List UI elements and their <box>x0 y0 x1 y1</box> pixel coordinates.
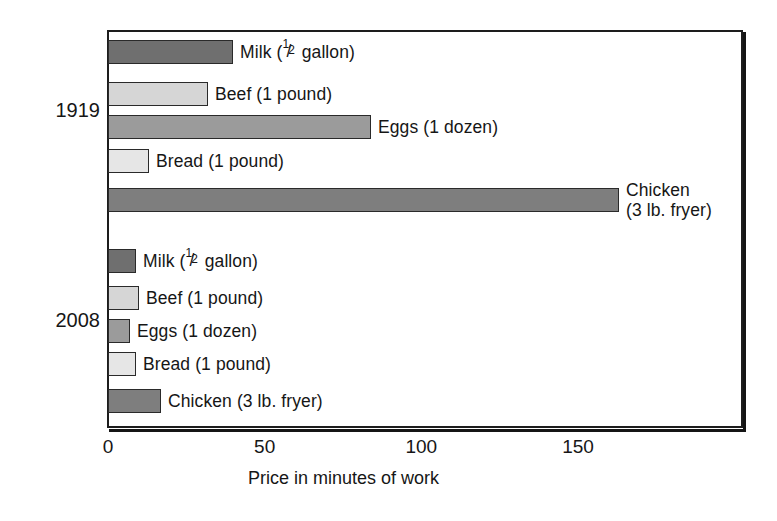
bar-label-2008-bread: Bread (1 pound) <box>143 354 271 374</box>
bar-label-2008-milk: Milk (1/2 gallon) <box>143 251 258 271</box>
x-tick-label-50: 50 <box>254 436 275 458</box>
bar-label-2008-eggs: Eggs (1 dozen) <box>137 321 257 341</box>
bar-2008-bread[interactable] <box>108 352 136 376</box>
bar-2008-eggs[interactable] <box>108 319 130 343</box>
group-label-1919: 1919 <box>28 99 100 122</box>
label-prefix: Milk ( <box>240 42 282 62</box>
bar-2008-beef[interactable] <box>108 286 139 310</box>
bar-1919-chicken[interactable] <box>108 188 619 212</box>
x-tick-label-150: 150 <box>562 436 594 458</box>
label-line-2: (3 lb. fryer) <box>626 200 712 220</box>
bar-1919-milk[interactable] <box>108 40 233 64</box>
bar-row[interactable]: Eggs (1 dozen) <box>108 319 257 343</box>
bar-label-2008-beef: Beef (1 pound) <box>146 288 263 308</box>
label-prefix: Milk ( <box>143 251 185 271</box>
fraction-one-half: 1/2 <box>282 42 296 60</box>
bar-row[interactable]: Chicken (3 lb. fryer) <box>108 389 323 413</box>
x-tick-label-100: 100 <box>405 436 437 458</box>
bar-label-1919-eggs: Eggs (1 dozen) <box>378 117 498 137</box>
bar-label-1919-chicken: Chicken (3 lb. fryer) <box>626 180 756 220</box>
fraction-one-half: 1/2 <box>185 251 199 269</box>
axis-bottom-rule <box>109 429 746 432</box>
bar-row[interactable]: Milk (1/2 gallon) <box>108 40 355 64</box>
bar-2008-chicken[interactable] <box>108 389 161 413</box>
x-tick-label-0: 0 <box>103 436 114 458</box>
bar-label-1919-milk: Milk (1/2 gallon) <box>240 42 355 62</box>
label-suffix: gallon) <box>200 251 258 271</box>
bar-label-2008-chicken: Chicken (3 lb. fryer) <box>168 391 323 411</box>
bar-label-1919-bread: Bread (1 pound) <box>156 151 284 171</box>
bar-1919-eggs[interactable] <box>108 115 371 139</box>
label-line-1: Chicken <box>626 180 690 200</box>
bar-1919-beef[interactable] <box>108 82 208 106</box>
label-suffix: gallon) <box>297 42 355 62</box>
bar-row[interactable]: Chicken (3 lb. fryer) <box>108 188 756 212</box>
bar-row[interactable]: Bread (1 pound) <box>108 352 271 376</box>
bar-row[interactable]: Bread (1 pound) <box>108 149 284 173</box>
bar-row[interactable]: Milk (1/2 gallon) <box>108 249 258 273</box>
bar-row[interactable]: Beef (1 pound) <box>108 82 332 106</box>
x-axis-title: Price in minutes of work <box>248 468 439 489</box>
bar-2008-milk[interactable] <box>108 249 136 273</box>
bar-row[interactable]: Eggs (1 dozen) <box>108 115 498 139</box>
x-axis-title-container: Price in minutes of work <box>0 468 777 489</box>
bar-chart: 1919 2008 Milk (1/2 gallon) Beef (1 poun… <box>0 0 777 521</box>
bar-row[interactable]: Beef (1 pound) <box>108 286 263 310</box>
bar-label-1919-beef: Beef (1 pound) <box>215 84 332 104</box>
group-label-2008: 2008 <box>28 309 100 332</box>
frame-right-rule <box>743 32 746 432</box>
bar-1919-bread[interactable] <box>108 149 149 173</box>
